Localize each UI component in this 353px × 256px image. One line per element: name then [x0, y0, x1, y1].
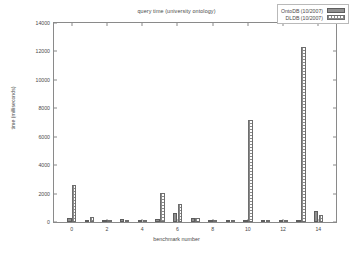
bar-dldb-0	[72, 185, 76, 222]
x-axis-label: benchmark number	[0, 236, 353, 242]
y-axis-tick-label: 8000	[38, 105, 50, 111]
bar-dldb-3	[125, 220, 129, 222]
bar-dldb-6	[178, 204, 182, 222]
legend-swatch-solid-icon	[327, 8, 345, 13]
y-axis-tick-mark	[333, 165, 336, 166]
legend-label-dldb: DLDB (10/2007)	[286, 15, 324, 21]
y-axis-tick-mark	[54, 136, 57, 137]
bar-dldb-13	[301, 47, 305, 222]
y-axis-tick-mark	[54, 79, 57, 80]
x-axis-tick-mark	[106, 23, 107, 26]
y-axis-tick-label: 0	[47, 219, 50, 225]
y-axis-tick-mark	[54, 193, 57, 194]
bar-ontodb-14	[314, 211, 318, 222]
plot-area: 0200040006000800010000120001400002468101…	[53, 22, 337, 223]
bar-ontodb-8	[208, 220, 212, 222]
bar-ontodb-3	[120, 219, 124, 222]
x-axis-tick-label: 14	[315, 226, 321, 232]
y-axis-tick-label: 4000	[38, 162, 50, 168]
y-axis-tick-mark	[54, 23, 57, 24]
x-axis-tick-mark	[247, 23, 248, 26]
x-axis-tick-mark	[142, 23, 143, 26]
x-axis-tick-label: 10	[245, 226, 251, 232]
bar-dldb-9	[231, 220, 235, 222]
bar-ontodb-4	[138, 220, 142, 222]
x-axis-tick-mark	[177, 23, 178, 26]
bar-ontodb-2	[102, 220, 106, 222]
chart-legend: OntoDB (10/2007) DLDB (10/2007)	[277, 4, 349, 24]
y-axis-tick-mark	[54, 222, 57, 223]
y-axis-tick-mark	[333, 79, 336, 80]
bar-ontodb-12	[279, 220, 283, 222]
x-axis-tick-label: 12	[280, 226, 286, 232]
legend-label-ontodb: OntoDB (10/2007)	[281, 8, 323, 14]
x-axis-tick-label: 8	[211, 226, 214, 232]
bar-ontodb-10	[243, 220, 247, 222]
x-axis-tick-label: 0	[70, 226, 73, 232]
bar-dldb-8	[213, 220, 217, 222]
y-axis-tick-label: 14000	[36, 20, 50, 26]
bar-dldb-11	[266, 220, 270, 222]
y-axis-tick-mark	[333, 222, 336, 223]
y-axis-tick-mark	[333, 108, 336, 109]
x-axis-tick-label: 2	[105, 226, 108, 232]
y-axis-tick-mark	[333, 51, 336, 52]
bar-ontodb-9	[226, 220, 230, 222]
y-axis-tick-mark	[54, 51, 57, 52]
bar-dldb-4	[143, 220, 147, 222]
y-axis-tick-mark	[54, 108, 57, 109]
legend-swatch-dotted-icon	[327, 15, 345, 20]
bar-dldb-12	[284, 220, 288, 222]
legend-item-ontodb: OntoDB (10/2007)	[281, 7, 345, 14]
bar-dldb-14	[319, 215, 323, 222]
x-axis-tick-mark	[71, 23, 72, 26]
y-axis-tick-label: 6000	[38, 134, 50, 140]
legend-item-dldb: DLDB (10/2007)	[281, 14, 345, 21]
x-axis-tick-label: 4	[141, 226, 144, 232]
y-axis-tick-mark	[333, 136, 336, 137]
bar-dldb-5	[160, 193, 164, 222]
bar-ontodb-13	[296, 220, 300, 222]
y-axis-tick-mark	[333, 193, 336, 194]
bar-ontodb-6	[173, 213, 177, 222]
y-axis-tick-mark	[54, 165, 57, 166]
y-axis-tick-label: 10000	[36, 77, 50, 83]
x-axis-tick-mark	[212, 23, 213, 26]
bar-ontodb-7	[191, 218, 195, 222]
bar-ontodb-1	[85, 220, 89, 222]
y-axis-label: time (milliseconds)	[10, 68, 16, 148]
bar-dldb-2	[107, 220, 111, 222]
chart-figure: query time (university ontology) time (m…	[0, 0, 353, 256]
bar-dldb-7	[195, 218, 199, 222]
x-axis-tick-label: 6	[176, 226, 179, 232]
bar-dldb-1	[90, 217, 94, 222]
bar-ontodb-5	[155, 219, 159, 222]
bar-ontodb-0	[67, 218, 71, 222]
bar-dldb-10	[248, 120, 252, 222]
bar-ontodb-11	[261, 220, 265, 222]
y-axis-tick-label: 2000	[38, 191, 50, 197]
y-axis-tick-label: 12000	[36, 48, 50, 54]
